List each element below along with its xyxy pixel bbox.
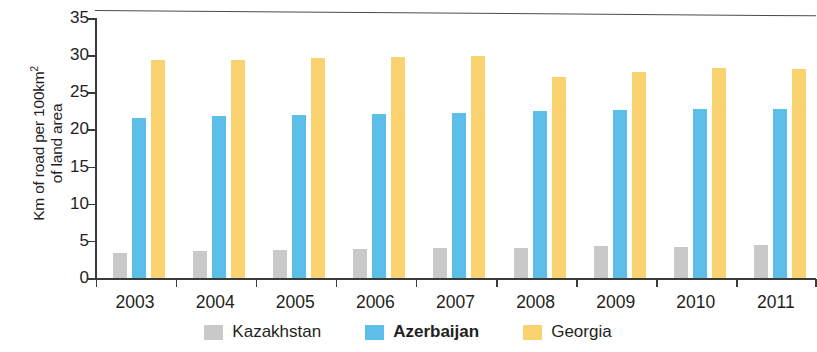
bar-azerbaijan-2010 bbox=[693, 109, 707, 278]
y-axis-line bbox=[95, 18, 97, 279]
bar-georgia-2008 bbox=[552, 77, 566, 278]
legend-swatch-icon bbox=[365, 325, 384, 340]
x-axis-line bbox=[95, 278, 816, 280]
legend-item-georgia[interactable]: Georgia bbox=[523, 322, 611, 342]
legend-label: Kazakhstan bbox=[232, 322, 321, 342]
bar-kazakhstan-2011 bbox=[754, 245, 768, 278]
x-tick-mark bbox=[815, 279, 817, 287]
legend-swatch-icon bbox=[523, 325, 542, 340]
y-tick-mark bbox=[88, 55, 96, 57]
y-tick-mark bbox=[88, 241, 96, 243]
legend-item-kazakhstan[interactable]: Kazakhstan bbox=[204, 322, 321, 342]
bar-azerbaijan-2011 bbox=[773, 109, 787, 278]
y-tick-label: 5 bbox=[49, 231, 89, 251]
legend-label: Azerbaijan bbox=[393, 322, 479, 342]
legend-label: Georgia bbox=[551, 322, 611, 342]
y-tick-label: 30 bbox=[49, 45, 89, 65]
y-tick-label: 10 bbox=[49, 194, 89, 214]
bar-azerbaijan-2009 bbox=[613, 110, 627, 278]
y-tick-mark bbox=[88, 129, 96, 131]
bar-azerbaijan-2006 bbox=[372, 114, 386, 278]
bar-kazakhstan-2008 bbox=[514, 248, 528, 278]
y-tick-label: 0 bbox=[49, 268, 89, 288]
bar-azerbaijan-2004 bbox=[212, 116, 226, 278]
x-tick-mark bbox=[176, 279, 178, 287]
bar-georgia-2006 bbox=[391, 57, 405, 278]
y-axis-title-line1: Km of road per 100km bbox=[30, 71, 47, 220]
x-tick-label: 2003 bbox=[95, 292, 175, 313]
x-tick-mark bbox=[736, 279, 738, 287]
x-tick-mark bbox=[576, 279, 578, 287]
bar-kazakhstan-2005 bbox=[273, 250, 287, 278]
x-tick-mark bbox=[416, 279, 418, 287]
bar-kazakhstan-2003 bbox=[113, 253, 127, 278]
legend-swatch-icon bbox=[204, 325, 223, 340]
bar-georgia-2010 bbox=[712, 68, 726, 278]
x-tick-mark bbox=[656, 279, 658, 287]
x-tick-label: 2010 bbox=[656, 292, 736, 313]
x-tick-label: 2008 bbox=[496, 292, 576, 313]
x-tick-label: 2009 bbox=[576, 292, 656, 313]
y-tick-mark bbox=[88, 18, 96, 20]
bar-kazakhstan-2007 bbox=[433, 248, 447, 278]
y-tick-label: 35 bbox=[49, 8, 89, 28]
bar-georgia-2004 bbox=[231, 60, 245, 278]
x-tick-label: 2006 bbox=[335, 292, 415, 313]
x-tick-label: 2005 bbox=[255, 292, 335, 313]
y-axis-title-superscript: 2 bbox=[29, 66, 40, 71]
bar-georgia-2003 bbox=[151, 60, 165, 278]
y-tick-mark bbox=[88, 167, 96, 169]
bar-georgia-2009 bbox=[632, 72, 646, 278]
y-tick-label: 20 bbox=[49, 119, 89, 139]
x-tick-mark bbox=[96, 279, 98, 287]
bar-kazakhstan-2010 bbox=[674, 247, 688, 278]
bar-azerbaijan-2003 bbox=[132, 118, 146, 278]
bar-georgia-2005 bbox=[311, 58, 325, 278]
bar-kazakhstan-2009 bbox=[594, 246, 608, 278]
y-tick-label: 15 bbox=[49, 157, 89, 177]
bar-georgia-2007 bbox=[471, 56, 485, 278]
x-tick-mark bbox=[496, 279, 498, 287]
y-tick-mark bbox=[88, 204, 96, 206]
chart-legend: KazakhstanAzerbaijanGeorgia bbox=[0, 322, 816, 342]
bar-kazakhstan-2006 bbox=[353, 249, 367, 278]
plot-top-border bbox=[95, 10, 816, 17]
bar-georgia-2011 bbox=[792, 69, 806, 278]
bar-kazakhstan-2004 bbox=[193, 251, 207, 278]
y-tick-mark bbox=[88, 92, 96, 94]
bar-azerbaijan-2007 bbox=[452, 113, 466, 278]
x-tick-label: 2004 bbox=[175, 292, 255, 313]
x-tick-label: 2011 bbox=[736, 292, 816, 313]
legend-item-azerbaijan[interactable]: Azerbaijan bbox=[365, 322, 479, 342]
x-tick-mark bbox=[336, 279, 338, 287]
bar-azerbaijan-2008 bbox=[533, 111, 547, 278]
x-tick-label: 2007 bbox=[416, 292, 496, 313]
bar-azerbaijan-2005 bbox=[292, 115, 306, 278]
plot-area: 05101520253035 2003200420052006200720082… bbox=[95, 18, 816, 278]
x-tick-mark bbox=[256, 279, 258, 287]
y-tick-label: 25 bbox=[49, 82, 89, 102]
